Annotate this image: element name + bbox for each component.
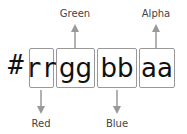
green-box: gg <box>56 48 95 88</box>
red-box: rr <box>29 48 54 88</box>
alpha-box: aa <box>139 48 175 88</box>
blue-label: Blue <box>97 118 137 129</box>
green-label: Green <box>55 8 95 19</box>
red-label: Red <box>21 118 61 129</box>
alpha-label: Alpha <box>136 8 176 19</box>
hash-symbol: # <box>8 50 24 80</box>
blue-box: bb <box>97 48 137 88</box>
